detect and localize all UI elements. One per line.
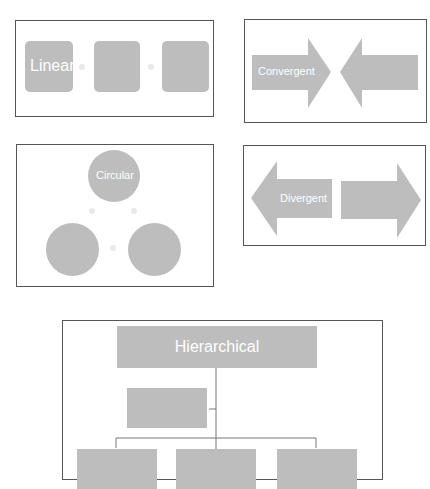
circle-bottom-left (46, 223, 99, 276)
linear-label: Linear (30, 57, 74, 75)
circular-label: Circular (96, 169, 134, 181)
hierarchy-child-box-2 (176, 449, 256, 489)
hierarchical-panel: Hierarchical (62, 320, 383, 480)
linear-panel: Linear (15, 20, 214, 117)
circular-connector-left (89, 208, 95, 214)
linear-step-3 (162, 41, 209, 92)
circular-connector-bottom (110, 245, 116, 251)
linear-step-2 (94, 41, 140, 92)
arrow-left-shape (340, 38, 418, 108)
convergent-label: Convergent (258, 65, 315, 77)
linear-connector-2 (148, 64, 154, 70)
hierarchy-child-box-1 (77, 449, 157, 489)
divergent-arrows (244, 146, 427, 247)
hierarchy-child-box-3 (277, 449, 357, 489)
circular-panel: Circular (16, 144, 214, 287)
convergent-panel: Convergent (244, 19, 427, 123)
circle-bottom-right (128, 223, 181, 276)
divergent-panel: Divergent (243, 145, 426, 246)
circular-connector-right (131, 208, 137, 214)
hierarchy-middle-box (127, 388, 207, 428)
arrow-right-shape (341, 163, 421, 238)
linear-connector-1 (79, 64, 85, 70)
divergent-label: Divergent (280, 192, 327, 204)
